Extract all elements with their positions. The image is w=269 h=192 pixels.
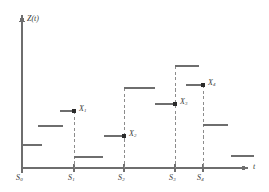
tick-label-s3-index: 3 <box>173 177 175 182</box>
y-axis-arrowhead <box>19 14 24 22</box>
jump-markers-group <box>72 83 205 138</box>
x-axis-label-text: t <box>253 162 255 171</box>
jump-label-x1: X1 <box>79 105 86 113</box>
step-segments-group <box>22 66 254 157</box>
tick-label-s0-index: 0 <box>20 177 22 182</box>
jump-label-x3: X3 <box>180 98 187 106</box>
jump-label-x1-index: 1 <box>84 108 86 113</box>
jump-label-x3-index: 3 <box>185 101 187 106</box>
jump-label-x2: X2 <box>129 130 136 138</box>
jump-label-x2-index: 2 <box>134 133 136 138</box>
tick-label-s3: S3 <box>169 174 175 182</box>
jump-marker-x3 <box>173 102 177 106</box>
tick-label-s4: S4 <box>197 174 203 182</box>
droplines-group <box>74 66 203 168</box>
tick-label-s2-index: 2 <box>122 177 124 182</box>
jump-marker-x1 <box>72 109 76 113</box>
x-axis-arrowhead <box>242 165 250 170</box>
jump-marker-x4 <box>201 83 205 87</box>
step-function-figure: Z(t) t S0 S1 S2 S3 S4 X1 X2 X3 X4 <box>0 0 269 192</box>
jump-label-x4: X4 <box>208 79 215 87</box>
figure-canvas <box>0 0 269 192</box>
axis-group <box>19 14 249 171</box>
tick-label-s1: S1 <box>68 174 74 182</box>
y-axis-label-text: Z(t) <box>27 14 39 23</box>
jump-label-x4-index: 4 <box>213 82 215 87</box>
y-axis-label: Z(t) <box>27 15 39 23</box>
jump-marker-x2 <box>122 134 126 138</box>
tick-label-s4-index: 4 <box>201 177 203 182</box>
tick-label-s2: S2 <box>118 174 124 182</box>
tick-label-s0: S0 <box>16 174 22 182</box>
x-axis-label: t <box>253 163 255 171</box>
tick-label-s1-index: 1 <box>72 177 74 182</box>
